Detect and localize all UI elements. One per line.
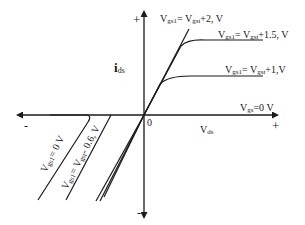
origin-label: 0 [147,117,152,128]
mosfet-iv-diagram: + - + - 0 ids Vds Vgs1= Vgst+2, V Vgs1= … [0,0,305,225]
label-vgs-0: Vgs=0 V [240,102,274,114]
x-minus-sign: - [24,119,28,133]
y-axis-label: ids [114,60,125,75]
y-minus-sign: - [137,206,141,220]
label-vgst-plus-1-5: Vgs1= Vgst+1.5, V [218,29,289,41]
y-plus-sign: + [133,12,140,27]
curve-labels: Vgs1= Vgst+2, V Vgs1= Vgst+1.5, V Vgs1= … [38,13,289,191]
axis-labels: + - + - 0 ids Vds [24,12,279,220]
label-vgst-plus-1: Vgs1= Vgst+1,V [225,64,286,76]
reverse-line-c [104,115,144,197]
x-plus-sign: + [272,118,279,133]
label-reverse-vgs1-0: Vgs1= 0 V [38,133,68,174]
x-axis-label: Vds [200,124,214,136]
label-vgst-plus-2: Vgs1= Vgst+2, V [160,13,224,25]
